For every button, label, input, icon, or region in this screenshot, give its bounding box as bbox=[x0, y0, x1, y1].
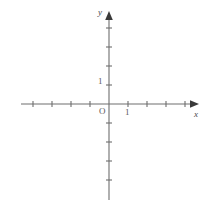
x-axis-label: x bbox=[194, 110, 198, 119]
y-axis-label: y bbox=[98, 8, 102, 17]
x-axis-arrow-icon bbox=[190, 100, 199, 108]
y-axis-arrow-icon bbox=[105, 11, 113, 20]
origin-label: O bbox=[99, 107, 106, 116]
y-axis-unit-label: 1 bbox=[98, 77, 103, 86]
x-axis-unit-label: 1 bbox=[125, 108, 130, 117]
coordinate-plane-figure: y x O 1 1 bbox=[0, 0, 217, 207]
axes-svg bbox=[0, 0, 217, 207]
